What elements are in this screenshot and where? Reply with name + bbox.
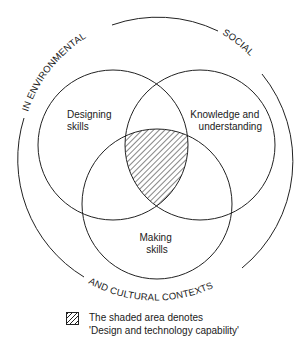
knowledge-understanding-label: Knowledge and understanding [190, 109, 262, 132]
making-skills-label: Making skills [139, 232, 174, 255]
legend: The shaded area denotes 'Design and tech… [66, 311, 239, 337]
outer-label-environmental: IN ENVIRONMENTAL [19, 30, 87, 113]
designing-skills-label: Designing skills [67, 109, 114, 132]
legend-line-1: The shaded area denotes [89, 311, 239, 324]
legend-text: The shaded area denotes 'Design and tech… [89, 311, 239, 337]
hatched-swatch-icon [66, 312, 79, 325]
shaded-intersection [82, 129, 232, 279]
legend-line-2: 'Design and technology capability' [89, 324, 239, 337]
venn-diagram: IN ENVIRONMENTAL SOCIAL AND CULTURAL CON… [0, 0, 304, 350]
outer-label-social: SOCIAL [221, 26, 257, 57]
